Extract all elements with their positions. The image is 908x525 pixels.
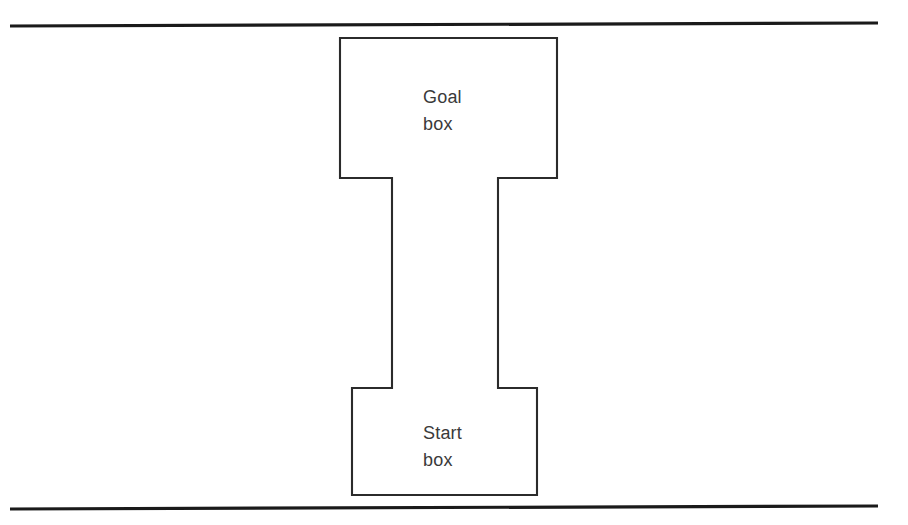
- bottom-rule: [10, 506, 878, 509]
- goal-box-label: Goal box: [423, 84, 462, 138]
- top-rule: [10, 23, 878, 26]
- figure-canvas: Goal box Start box: [0, 0, 908, 525]
- start-box-label: Start box: [423, 420, 462, 474]
